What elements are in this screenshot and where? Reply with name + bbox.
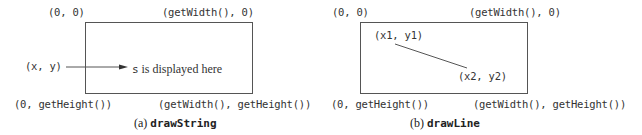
diagram-lines (0, 0, 642, 135)
drawn-line (395, 44, 467, 68)
arrow-head-icon (119, 65, 128, 70)
